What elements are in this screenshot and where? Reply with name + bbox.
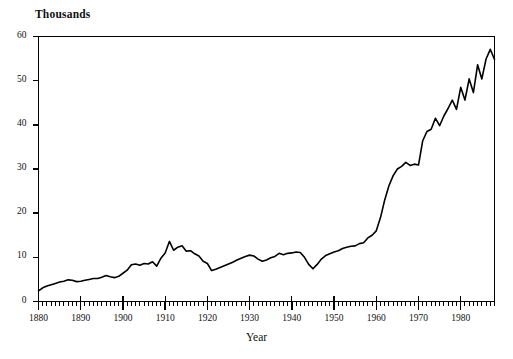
x-tick-label: 1940 <box>272 313 312 323</box>
y-tick-label: 30 <box>5 162 27 172</box>
axis-ticks <box>33 37 495 311</box>
plot-frame <box>38 37 495 302</box>
x-tick-label: 1960 <box>356 313 396 323</box>
x-tick-label: 1970 <box>399 313 439 323</box>
x-tick-label: 1900 <box>103 313 143 323</box>
y-tick-label: 0 <box>5 295 27 305</box>
chart-figure: Thousands 0102030405060 1880189019001910… <box>0 0 513 359</box>
y-tick-label: 20 <box>5 206 27 216</box>
y-tick-label: 60 <box>5 30 27 40</box>
y-tick-label: 10 <box>5 250 27 260</box>
x-tick-label: 1890 <box>61 313 101 323</box>
line-chart-plot <box>0 0 513 359</box>
x-tick-label: 1950 <box>314 313 354 323</box>
x-tick-label: 1930 <box>230 313 270 323</box>
x-tick-label: 1910 <box>145 313 185 323</box>
data-line-series <box>39 49 495 291</box>
x-axis-title: Year <box>0 331 513 343</box>
data-line <box>39 49 495 291</box>
y-tick-label: 40 <box>5 118 27 128</box>
x-tick-label: 1880 <box>19 313 59 323</box>
y-tick-label: 50 <box>5 74 27 84</box>
x-tick-label: 1980 <box>441 313 481 323</box>
x-tick-label: 1920 <box>187 313 227 323</box>
